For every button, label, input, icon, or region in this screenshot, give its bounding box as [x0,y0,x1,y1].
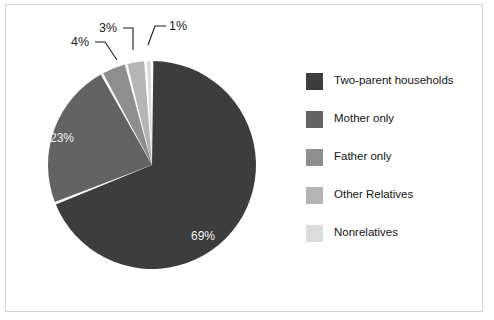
legend-item-label: Other Relatives [334,189,413,201]
legend-item-label: Nonrelatives [334,227,398,239]
leader-line-father-only [95,42,117,60]
pie-slices [48,61,256,269]
pie-chart-figure: 69% 23% 4% 3% 1% Two-parent households M… [0,0,494,320]
legend-swatch-icon [306,111,323,128]
legend-item-other-relatives[interactable]: Other Relatives [306,176,478,214]
legend-item-label: Father only [334,151,392,163]
legend-swatch-icon [306,187,323,204]
legend-item-father-only[interactable]: Father only [306,138,478,176]
legend-item-label: Mother only [334,113,394,125]
legend-swatch-icon [306,149,323,166]
pie-value-label-nonrelatives: 1% [169,19,187,33]
legend-item-label: Two-parent households [334,75,454,87]
pie-value-label-mother-only: 23% [50,131,74,145]
legend-swatch-icon [306,73,323,90]
leader-line-other-relatives [123,28,133,50]
pie-value-label-other-relatives: 3% [99,21,117,35]
leader-line-nonrelatives [148,26,166,45]
legend-item-two-parent-households[interactable]: Two-parent households [306,62,478,100]
legend-item-mother-only[interactable]: Mother only [306,100,478,138]
legend-swatch-icon [306,225,323,242]
legend-item-nonrelatives[interactable]: Nonrelatives [306,214,478,252]
pie-svg: 69% 23% 4% 3% 1% [0,0,300,320]
pie-value-label-two-parent-households: 69% [191,229,215,243]
pie-plot-area: 69% 23% 4% 3% 1% [0,0,300,320]
pie-value-label-father-only: 4% [71,35,89,49]
chart-legend: Two-parent households Mother only Father… [306,62,478,252]
